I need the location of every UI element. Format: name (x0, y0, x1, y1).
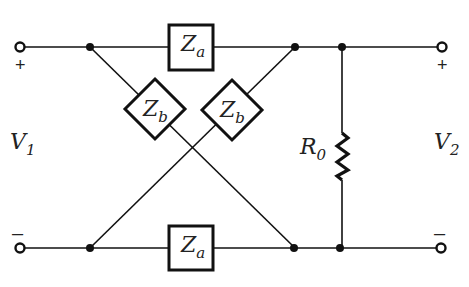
input-minus-sign: – (12, 223, 23, 243)
input-terminal-plus (16, 43, 25, 52)
junction-dot (86, 43, 94, 51)
v1-label: V1 (10, 131, 35, 158)
za-top-subscript: a (196, 43, 205, 61)
v1-subscript: 1 (26, 141, 36, 159)
zb-left-subscript: b (158, 108, 168, 126)
output-terminal-minus (437, 244, 446, 253)
r0-subscript: 0 (317, 146, 327, 164)
output-terminal-plus (438, 43, 447, 52)
r0-resistor-zigzag (337, 133, 348, 180)
output-plus-sign: + (437, 56, 448, 74)
input-plus-sign: + (15, 56, 26, 74)
v2-subscript: 2 (450, 141, 460, 159)
circuit-wiring (0, 0, 469, 287)
zb-right-symbol: Z (220, 97, 235, 122)
za-bottom-label: Za (181, 234, 205, 261)
junction-dot (338, 43, 346, 51)
v2-label: V2 (434, 131, 459, 158)
r0-label: R0 (300, 136, 326, 163)
r0-symbol: R (300, 134, 317, 159)
za-bottom-symbol: Z (181, 232, 196, 257)
lattice-circuit-diagram: Za Za Zb Zb R0 V1 V2 + + – – (0, 0, 469, 287)
junction-dot (336, 244, 344, 252)
zb-left-label: Zb (143, 98, 168, 125)
junction-dot (86, 244, 94, 252)
v1-symbol: V (10, 129, 26, 154)
zb-right-subscript: b (235, 109, 245, 127)
zb-left-symbol: Z (143, 96, 158, 121)
za-top-label: Za (181, 33, 205, 60)
output-minus-sign: – (434, 223, 445, 243)
junction-dot (290, 244, 298, 252)
za-bottom-subscript: a (196, 244, 205, 262)
junction-dot (291, 43, 299, 51)
input-terminal-minus (16, 244, 25, 253)
zb-right-label: Zb (220, 99, 245, 126)
v2-symbol: V (434, 129, 450, 154)
za-top-symbol: Z (181, 31, 196, 56)
